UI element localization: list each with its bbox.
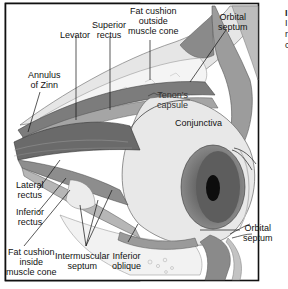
- label-line: Superior: [92, 20, 126, 30]
- label-line: rectus: [16, 217, 44, 227]
- label-line: Lateral: [16, 180, 44, 190]
- side-text-fragment: I r c: [285, 18, 288, 51]
- label-line: inside: [6, 257, 57, 267]
- label-tenons-capsule: Tenon's capsule: [157, 90, 188, 110]
- label-line: of Zinn: [28, 80, 61, 90]
- side-text-line: r: [285, 29, 288, 40]
- label-line: Inferior: [16, 207, 44, 217]
- label-lateral-rectus: Lateral rectus: [16, 180, 44, 200]
- label-fat-cushion-inside: Fat cushion inside muscle cone: [6, 247, 57, 277]
- label-annulus-of-zinn: Annulus of Zinn: [28, 70, 61, 90]
- label-line: Orbital: [218, 12, 248, 22]
- label-line: Tenon's: [157, 90, 188, 100]
- label-line: capsule: [157, 100, 188, 110]
- label-line: Annulus: [28, 70, 61, 80]
- label-orbital-septum-bottom: Orbital septum: [243, 223, 273, 243]
- label-line: rectus: [92, 30, 126, 40]
- label-line: septum: [218, 22, 248, 32]
- label-line: septum: [243, 233, 273, 243]
- label-line: septum: [55, 261, 110, 271]
- side-text-line: c: [285, 40, 288, 51]
- label-intermuscular-septum: Intermuscular septum: [55, 251, 110, 271]
- label-fat-cushion-outside: Fat cushion outside muscle cone: [128, 6, 179, 36]
- label-line: Fat cushion: [6, 247, 57, 257]
- label-line: Inferior: [112, 251, 141, 261]
- side-text-line: I: [285, 18, 288, 29]
- label-inferior-rectus: Inferior rectus: [16, 207, 44, 227]
- label-levator: Levator: [60, 30, 90, 40]
- label-inferior-oblique: Inferior oblique: [112, 251, 141, 271]
- label-line: rectus: [16, 190, 44, 200]
- label-line: oblique: [112, 261, 141, 271]
- label-line: Orbital: [243, 223, 273, 233]
- label-line: muscle cone: [128, 26, 179, 36]
- label-conjunctiva: Conjunctiva: [175, 118, 222, 128]
- label-line: outside: [128, 16, 179, 26]
- label-orbital-septum-top: Orbital septum: [218, 12, 248, 32]
- label-line: Fat cushion: [128, 6, 179, 16]
- label-line: Conjunctiva: [175, 118, 222, 128]
- label-line: muscle cone: [6, 267, 57, 277]
- label-line: Intermuscular: [55, 251, 110, 261]
- label-superior-rectus: Superior rectus: [92, 20, 126, 40]
- label-line: Levator: [60, 30, 90, 40]
- orbit-drawing: [0, 0, 288, 289]
